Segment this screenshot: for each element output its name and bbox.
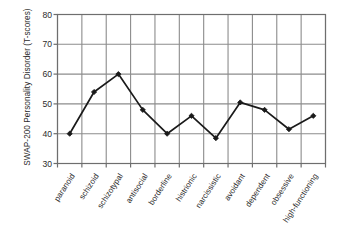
line-chart: SWAP-200 Personality Disorder (T-scores)… [0,0,338,234]
x-axis-tick-labels: paranoidschizoidschizotypalantisocialbor… [0,0,338,234]
